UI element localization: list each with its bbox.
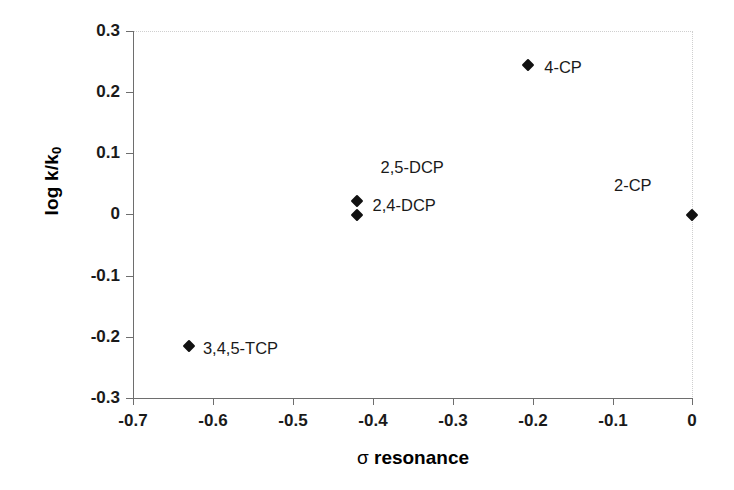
plot-border-top <box>133 31 693 32</box>
y-axis-title-sub: 0 <box>49 146 64 153</box>
y-tick-label-wrap-2: 0.1 <box>56 144 120 162</box>
y-tick-label: -0.1 <box>60 267 120 284</box>
x-tick-3 <box>373 398 374 405</box>
data-point-label: 3,4,5-TCP <box>203 340 278 357</box>
y-tick-4 <box>126 276 133 277</box>
x-tick-2 <box>293 398 294 405</box>
x-tick-label: -0.7 <box>98 412 168 429</box>
x-axis-title: σ resonance <box>133 447 693 469</box>
y-tick-5 <box>126 337 133 338</box>
y-axis-title-main: log k/k <box>41 154 62 216</box>
y-tick-label-wrap-5: -0.2 <box>56 328 120 346</box>
x-tick-6 <box>613 398 614 405</box>
y-tick-label-wrap-6: -0.3 <box>56 389 120 407</box>
y-tick-6 <box>126 398 133 399</box>
y-axis-title: log k/k0 <box>41 121 63 241</box>
scatter-chart: 0.3 0.2 0.1 0 -0.1 -0.2 -0.3 -0.7 -0.6 -… <box>0 0 734 490</box>
y-tick-label-wrap-3: 0 <box>56 205 120 223</box>
data-point-label: 4-CP <box>544 59 582 76</box>
x-axis-title-text: resonance <box>374 447 469 468</box>
y-tick-2 <box>126 153 133 154</box>
x-axis-line <box>133 398 693 399</box>
y-tick-label: -0.3 <box>60 389 120 406</box>
x-tick-label: -0.6 <box>178 412 248 429</box>
y-tick-3 <box>126 214 133 215</box>
y-axis-line <box>133 31 134 399</box>
x-tick-label: -0.3 <box>418 412 488 429</box>
y-tick-label-wrap-4: -0.1 <box>56 267 120 285</box>
y-tick-label: -0.2 <box>60 328 120 345</box>
x-tick-label: -0.4 <box>338 412 408 429</box>
x-tick-1 <box>213 398 214 405</box>
data-point-label: 2,5-DCP <box>381 159 444 176</box>
y-tick-0 <box>126 31 133 32</box>
data-point-label: 2,4-DCP <box>373 197 436 214</box>
y-tick-1 <box>126 92 133 93</box>
y-tick-label-wrap-1: 0.2 <box>56 83 120 101</box>
x-tick-0 <box>133 398 134 405</box>
x-tick-4 <box>453 398 454 405</box>
x-tick-label: -0.2 <box>498 412 568 429</box>
x-tick-7 <box>692 398 693 405</box>
y-tick-label: 0.2 <box>60 83 120 100</box>
x-tick-label: 0 <box>657 412 727 429</box>
y-tick-label: 0 <box>60 205 120 222</box>
x-tick-label: -0.1 <box>578 412 648 429</box>
x-tick-label: -0.5 <box>258 412 328 429</box>
y-tick-label-wrap-0: 0.3 <box>56 22 120 40</box>
x-tick-5 <box>533 398 534 405</box>
sigma-symbol: σ <box>357 447 369 468</box>
data-point-label: 2-CP <box>614 177 652 194</box>
y-tick-label: 0.3 <box>60 22 120 39</box>
y-tick-label: 0.1 <box>60 144 120 161</box>
